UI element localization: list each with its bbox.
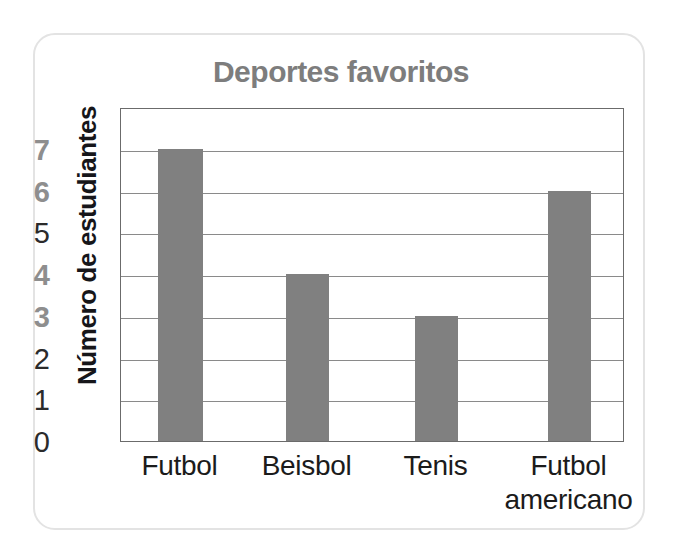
y-axis-title: Número de estudiantes <box>72 81 103 411</box>
y-tick-label-4: 4 <box>10 261 50 290</box>
y-tick-label-7: 7 <box>10 135 50 164</box>
y-tick-label-5: 5 <box>10 219 50 248</box>
y-tick-label-2: 2 <box>10 344 50 373</box>
chart-title: Deportes favoritos <box>35 55 647 89</box>
bar-beisbol <box>286 274 329 441</box>
y-tick-label-6: 6 <box>10 177 50 206</box>
y-tick-label-0: 0 <box>10 428 50 457</box>
bar-futbol <box>158 149 203 441</box>
bar-futbol-americano <box>548 191 591 442</box>
bar-tenis <box>415 316 458 441</box>
x-tick-label-futbol-americano: Futbol americano <box>489 449 649 517</box>
chart-card: Deportes favoritos Número de estudiantes… <box>33 33 645 530</box>
y-tick-label-1: 1 <box>10 386 50 415</box>
plot-area <box>120 108 624 442</box>
x-tick-label-beisbol: Beisbol <box>232 449 382 483</box>
y-tick-label-3: 3 <box>10 302 50 331</box>
x-tick-label-tenis: Tenis <box>371 449 501 483</box>
